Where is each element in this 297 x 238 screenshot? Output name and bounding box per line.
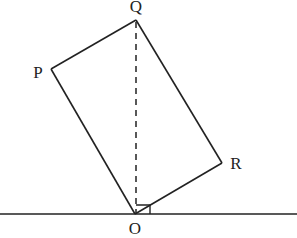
label-q: Q [130, 0, 142, 16]
side-pq [51, 20, 136, 69]
side-qr [136, 20, 222, 163]
label-o: O [129, 219, 141, 238]
geometry-diagram: Q P R O [0, 0, 297, 238]
label-p: P [33, 63, 42, 82]
side-ro [135, 163, 222, 214]
side-op [51, 69, 135, 214]
label-r: R [230, 154, 242, 173]
